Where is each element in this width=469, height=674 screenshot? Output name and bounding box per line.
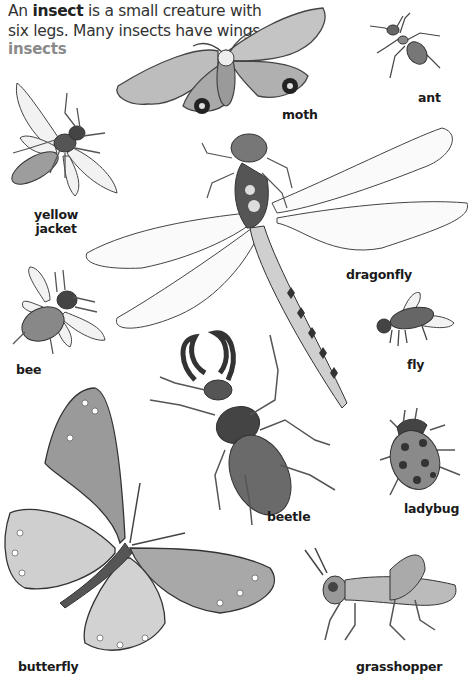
section-heading: insects (8, 40, 67, 58)
insect-term: insect (32, 2, 83, 20)
intro-prefix: An (8, 2, 32, 20)
butterfly-label: butterfly (18, 660, 79, 674)
ladybug-illustration (375, 405, 465, 505)
fly-label: fly (407, 358, 424, 372)
butterfly-illustration (0, 383, 285, 653)
fly-illustration (372, 288, 462, 348)
yellow-jacket-label-line1: yellow (34, 207, 78, 222)
yellow-jacket-label: yellow jacket (34, 208, 78, 236)
grasshopper-illustration (295, 545, 465, 645)
dragonfly-label: dragonfly (346, 268, 412, 282)
ant-illustration (365, 8, 455, 88)
moth-illustration (108, 6, 333, 116)
yellow-jacket-label-line2: jacket (35, 221, 76, 236)
bee-illustration (5, 262, 105, 357)
bee-label: bee (16, 363, 41, 377)
ladybug-label: ladybug (404, 502, 459, 516)
grasshopper-label: grasshopper (356, 660, 442, 674)
ant-label: ant (418, 91, 441, 105)
